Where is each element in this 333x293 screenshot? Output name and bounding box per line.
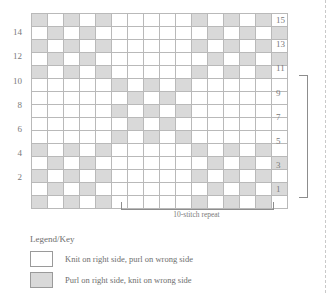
cell-knit bbox=[32, 118, 48, 131]
cell-knit bbox=[160, 14, 176, 27]
cell-purl bbox=[64, 170, 80, 183]
legend-item-knit: Knit on right side, purl on wrong side bbox=[30, 251, 320, 267]
chart-row bbox=[32, 105, 288, 118]
cell-knit bbox=[48, 118, 64, 131]
cell-knit bbox=[208, 40, 224, 53]
cell-purl bbox=[48, 157, 64, 170]
cell-purl bbox=[32, 40, 48, 53]
cell-purl bbox=[176, 105, 192, 118]
cell-purl bbox=[64, 40, 80, 53]
cell-purl bbox=[256, 144, 272, 157]
legend-label-purl: Purl on right side, knit on wrong side bbox=[65, 275, 192, 285]
cell-knit bbox=[128, 144, 144, 157]
cell-knit bbox=[160, 183, 176, 196]
cell-purl bbox=[256, 40, 272, 53]
cell-knit bbox=[160, 144, 176, 157]
row-number-10: 10 bbox=[2, 75, 22, 87]
cell-knit bbox=[112, 53, 128, 66]
cell-knit bbox=[208, 105, 224, 118]
cell-knit bbox=[112, 183, 128, 196]
cell-purl bbox=[176, 79, 192, 92]
cell-knit bbox=[96, 27, 112, 40]
cell-knit bbox=[256, 105, 272, 118]
cell-purl bbox=[32, 66, 48, 79]
cell-knit bbox=[256, 118, 272, 131]
cell-purl bbox=[32, 144, 48, 157]
cell-knit bbox=[224, 118, 240, 131]
cell-knit bbox=[240, 14, 256, 27]
cell-purl bbox=[96, 14, 112, 27]
cell-knit bbox=[240, 144, 256, 157]
cell-knit bbox=[256, 53, 272, 66]
chart-row bbox=[32, 170, 288, 183]
legend-label-knit: Knit on right side, purl on wrong side bbox=[65, 254, 193, 264]
cell-knit bbox=[48, 170, 64, 183]
cell-purl bbox=[240, 53, 256, 66]
row-number-13: 13 bbox=[276, 38, 296, 50]
cell-knit bbox=[96, 118, 112, 131]
cell-knit bbox=[32, 131, 48, 144]
cell-knit bbox=[224, 131, 240, 144]
cell-knit bbox=[160, 131, 176, 144]
cell-knit bbox=[128, 157, 144, 170]
cell-knit bbox=[96, 105, 112, 118]
chart-row bbox=[32, 92, 288, 105]
cell-knit bbox=[32, 53, 48, 66]
cell-purl bbox=[48, 27, 64, 40]
cell-knit bbox=[64, 92, 80, 105]
cell-knit bbox=[96, 53, 112, 66]
cell-knit bbox=[224, 157, 240, 170]
chart-row bbox=[32, 131, 288, 144]
stitch-repeat-label: 10-stitch repeat bbox=[121, 210, 272, 219]
cell-knit bbox=[176, 66, 192, 79]
row-number-6: 6 bbox=[2, 123, 22, 135]
cell-knit bbox=[240, 92, 256, 105]
cell-knit bbox=[64, 53, 80, 66]
cell-knit bbox=[112, 14, 128, 27]
cell-knit bbox=[176, 27, 192, 40]
cell-knit bbox=[112, 118, 128, 131]
cell-knit bbox=[112, 27, 128, 40]
chart-row bbox=[32, 14, 288, 27]
chart-row bbox=[32, 27, 288, 40]
cell-knit bbox=[224, 105, 240, 118]
cell-knit bbox=[96, 79, 112, 92]
cell-purl bbox=[256, 14, 272, 27]
cell-knit bbox=[192, 92, 208, 105]
cell-knit bbox=[48, 66, 64, 79]
cell-knit bbox=[224, 53, 240, 66]
cell-knit bbox=[192, 157, 208, 170]
cell-knit bbox=[176, 118, 192, 131]
cell-purl bbox=[32, 14, 48, 27]
cell-knit bbox=[128, 53, 144, 66]
cell-knit bbox=[48, 79, 64, 92]
cell-purl bbox=[48, 183, 64, 196]
cell-purl bbox=[160, 92, 176, 105]
chart-row bbox=[32, 118, 288, 131]
cell-purl bbox=[128, 92, 144, 105]
cell-knit bbox=[80, 66, 96, 79]
cell-knit bbox=[144, 170, 160, 183]
cell-knit bbox=[224, 92, 240, 105]
cell-purl bbox=[80, 53, 96, 66]
cell-knit bbox=[32, 183, 48, 196]
cell-knit bbox=[192, 131, 208, 144]
cell-knit bbox=[128, 105, 144, 118]
legend-item-purl: Purl on right side, knit on wrong side bbox=[30, 272, 320, 288]
chart-row bbox=[32, 157, 288, 170]
cell-knit bbox=[192, 79, 208, 92]
cell-knit bbox=[176, 170, 192, 183]
cell-purl bbox=[160, 118, 176, 131]
cell-knit bbox=[32, 27, 48, 40]
cell-knit bbox=[32, 92, 48, 105]
cell-purl bbox=[96, 144, 112, 157]
cell-knit bbox=[112, 170, 128, 183]
cell-purl bbox=[112, 131, 128, 144]
cell-purl bbox=[224, 170, 240, 183]
cell-knit bbox=[256, 183, 272, 196]
chart-row bbox=[32, 144, 288, 157]
cell-knit bbox=[80, 196, 96, 209]
cell-knit bbox=[48, 14, 64, 27]
row-number-7: 7 bbox=[276, 111, 296, 123]
cell-purl bbox=[192, 170, 208, 183]
